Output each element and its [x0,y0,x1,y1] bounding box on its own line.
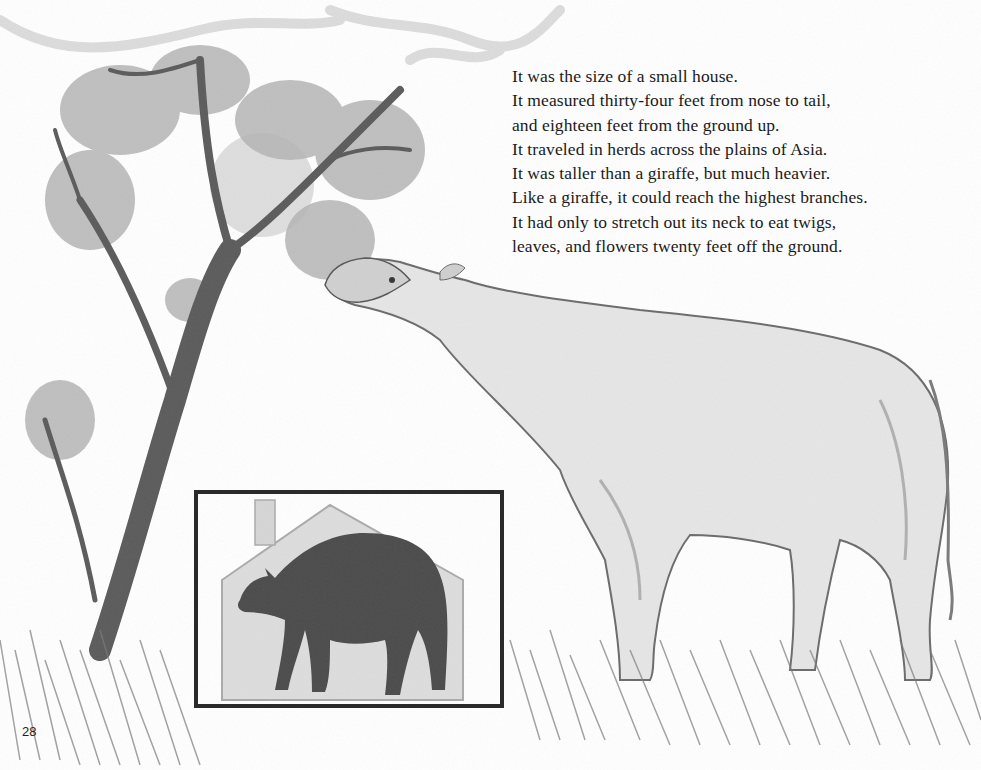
text-line: It was taller than a giraffe, but much h… [512,161,932,185]
text-line: It had only to stretch out its neck to e… [512,210,932,234]
inset-frame [194,490,504,708]
text-line: Like a giraffe, it could reach the highe… [512,185,932,209]
text-line: leaves, and flowers twenty feet off the … [512,234,932,258]
text-line: It was the size of a small house. [512,64,932,88]
text-line: and eighteen feet from the ground up. [512,113,932,137]
story-text: It was the size of a small house. It mea… [512,64,932,258]
page-number: 28 [22,724,36,739]
text-line: It measured thirty-four feet from nose t… [512,88,932,112]
text-line: It traveled in herds across the plains o… [512,137,932,161]
book-page: It was the size of a small house. It mea… [0,0,981,770]
